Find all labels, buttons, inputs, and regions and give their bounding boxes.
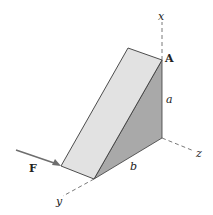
x-axis-label: x <box>158 10 165 23</box>
force-arrow-head <box>52 159 61 166</box>
y-axis <box>63 179 94 196</box>
z-axis-label: z <box>195 147 202 160</box>
wedge-diagram: x A a z b F y <box>0 0 213 215</box>
z-axis <box>162 138 194 151</box>
point-a-label: A <box>164 52 174 65</box>
y-axis-label: y <box>55 195 63 208</box>
height-label: a <box>166 93 173 106</box>
force-label: F <box>29 162 37 175</box>
width-label: b <box>130 160 137 173</box>
